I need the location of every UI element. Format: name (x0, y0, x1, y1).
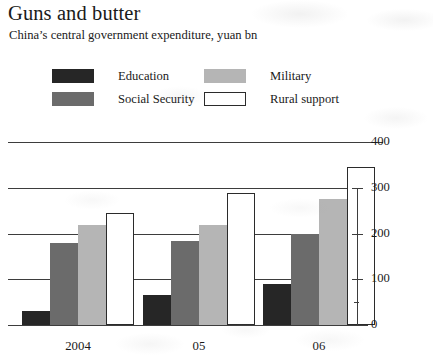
gridline-400 (8, 142, 383, 143)
bar (227, 193, 255, 325)
legend-swatch-social-security (52, 92, 94, 106)
gridline-300 (8, 188, 358, 189)
page-title: Guns and butter (8, 1, 140, 25)
y-tick-label-200: 200 (371, 227, 390, 239)
legend-swatch-military (204, 69, 246, 83)
bar (319, 199, 347, 325)
y-tick-label-0: 0 (371, 318, 377, 330)
y-tick-100 (352, 279, 363, 280)
bar (50, 243, 78, 325)
legend-label-military: Military (270, 69, 311, 84)
chart-subtitle: China’s central government expenditure, … (9, 27, 257, 43)
x-tick-label-06: 06 (279, 339, 359, 353)
x-tick-label-2004: 2004 (38, 339, 118, 353)
y-tick-300 (352, 188, 363, 189)
chart-legend: Education Social Security Military Rural… (52, 66, 382, 112)
x-axis-baseline (8, 325, 368, 326)
legend-item-social-security: Social Security (52, 90, 195, 108)
bar (78, 225, 106, 325)
bar (291, 234, 319, 325)
bar (143, 295, 171, 325)
bar (106, 213, 134, 325)
legend-label-education: Education (118, 69, 169, 84)
legend-item-education: Education (52, 67, 169, 85)
y-tick-0 (352, 325, 363, 326)
bar (199, 225, 227, 325)
legend-item-rural-support: Rural support (204, 90, 339, 108)
y-axis-line (357, 188, 358, 325)
y-tick-label-300: 300 (371, 181, 390, 193)
legend-label-social-security: Social Security (118, 92, 195, 107)
x-tick-label-05: 05 (159, 339, 239, 353)
bar (171, 241, 199, 325)
legend-item-military: Military (204, 67, 311, 85)
bar (22, 311, 50, 325)
legend-label-rural-support: Rural support (270, 92, 339, 107)
y-tick-minor-50 (354, 302, 359, 303)
y-tick-200 (352, 234, 363, 235)
y-tick-label-100: 100 (371, 272, 390, 284)
bar (263, 284, 291, 325)
legend-swatch-education (52, 69, 94, 83)
chart-plot-area: 0100200300400 20040506 (0, 120, 433, 335)
y-tick-label-400: 400 (371, 135, 390, 147)
legend-swatch-rural-support (204, 92, 246, 106)
